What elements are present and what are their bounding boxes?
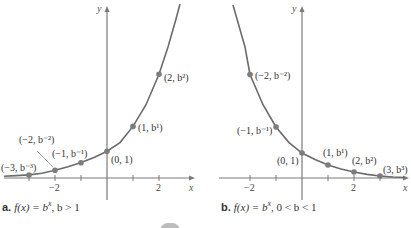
tick-label-neg2: −2	[49, 182, 60, 193]
point-neg3	[26, 172, 32, 178]
leader-line	[37, 151, 53, 167]
caption-b: b.f(x) = bx, 0 < b < 1	[221, 199, 316, 213]
point-neg2	[247, 72, 253, 78]
x-axis-label: x	[402, 182, 408, 193]
label-point-neg2: (−2, b⁻²)	[19, 134, 54, 146]
label-point-0: (0, 1)	[111, 154, 133, 166]
point-2	[156, 71, 162, 77]
point-neg2	[52, 168, 58, 174]
point-3	[377, 173, 383, 179]
tick-label-neg2: −2	[244, 182, 255, 193]
tick-label-2: 2	[156, 182, 161, 193]
caption-condition: , 0 < b < 1	[271, 201, 316, 213]
caption-a: a.f(x) = bx, b > 1	[2, 199, 80, 213]
caption-function: f(x) = b	[14, 201, 48, 213]
y-axis-arrow-icon	[105, 6, 110, 12]
point-1	[325, 162, 331, 168]
chart-panel-a: y x −2 2 (−3, b⁻³) (−2, b⁻²) (−1, b⁻¹) (…	[1, 3, 195, 200]
point-neg1	[273, 124, 279, 130]
label-point-neg1: (−1, b⁻¹)	[52, 148, 87, 160]
label-point-1: (1, b¹)	[323, 147, 348, 159]
chart-panel-b: y x −2 2 (−2, b⁻²) (−1, b⁻¹) (0, 1) (1, …	[219, 3, 409, 200]
y-axis-label: y	[96, 3, 102, 14]
label-point-neg2: (−2, b⁻²)	[255, 70, 290, 82]
y-axis-label: y	[291, 3, 297, 14]
label-point-2: (2, b²)	[164, 72, 189, 84]
caption-condition: , b > 1	[51, 201, 79, 213]
caption-letter: a.	[2, 201, 11, 213]
point-neg1	[78, 160, 84, 166]
decay-curve	[233, 5, 405, 178]
caption-letter: b.	[221, 201, 231, 213]
x-axis-arrow-icon	[189, 176, 195, 181]
figure: y x −2 2 (−3, b⁻³) (−2, b⁻²) (−1, b⁻¹) (…	[0, 0, 411, 228]
point-2	[351, 169, 357, 175]
label-point-neg3: (−3, b⁻³)	[1, 162, 36, 174]
y-axis-arrow-icon	[300, 6, 305, 12]
growth-curve	[4, 4, 180, 176]
caption-function: f(x) = b	[234, 201, 268, 213]
label-point-2: (2, b²)	[352, 155, 377, 167]
label-point-neg1: (−1, b⁻¹)	[237, 125, 272, 137]
tick-label-2: 2	[351, 182, 356, 193]
label-point-3: (3, b³)	[383, 164, 408, 176]
point-1	[130, 124, 136, 130]
point-0	[104, 148, 110, 154]
point-0	[299, 150, 305, 156]
label-point-0: (0, 1)	[277, 155, 299, 167]
label-point-1: (1, b¹)	[138, 122, 163, 134]
x-axis-label: x	[188, 182, 194, 193]
